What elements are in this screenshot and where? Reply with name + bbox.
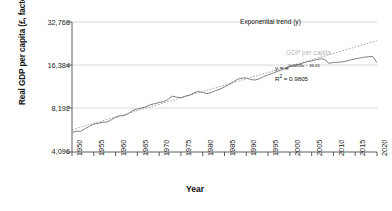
x-tick-1985: 1985	[228, 140, 237, 156]
x-axis-ticks-marks	[72, 152, 377, 156]
exponential-trend-label: Exponential trend (y)	[240, 18, 301, 25]
gdp-per-capita-series	[72, 56, 377, 132]
equation-exponent: 0.0203x − 36.61	[289, 63, 321, 68]
x-tick-1980: 1980	[206, 140, 215, 156]
x-tick-1960: 1960	[119, 140, 128, 156]
axis-lines	[66, 22, 377, 152]
plot-canvas	[0, 0, 392, 211]
x-tick-1950: 1950	[75, 140, 84, 156]
equation-base: y = e	[275, 64, 289, 71]
x-tick-1975: 1975	[184, 140, 193, 156]
x-tick-2005: 2005	[315, 140, 324, 156]
gdp-per-capita-label: GDP per capita	[286, 49, 331, 56]
x-tick-1990: 1990	[249, 140, 258, 156]
x-tick-2015: 2015	[358, 140, 367, 156]
x-axis-title: Year	[186, 184, 204, 194]
chart-container: Real GDP per capita (£, factor cost) 32,…	[0, 0, 392, 211]
x-tick-2010: 2010	[337, 140, 346, 156]
r-squared-value: = 0.9805	[282, 75, 308, 82]
x-tick-1970: 1970	[162, 140, 171, 156]
r-squared-label: R2 = 0.9805	[275, 74, 308, 82]
x-tick-1955: 1955	[97, 140, 106, 156]
gridlines	[72, 22, 377, 108]
x-tick-2000: 2000	[293, 140, 302, 156]
x-tick-2020: 2020	[380, 140, 389, 156]
equation-label: y = e0.0203x − 36.61	[275, 63, 320, 71]
x-tick-1965: 1965	[141, 140, 150, 156]
x-tick-1995: 1995	[271, 140, 280, 156]
